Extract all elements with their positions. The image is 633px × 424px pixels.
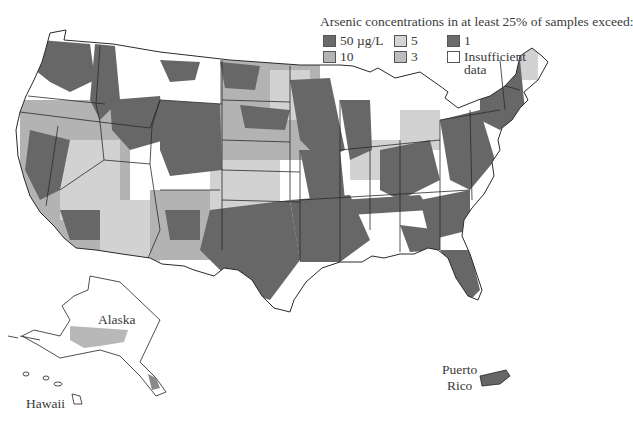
legend-label-1: 1 xyxy=(464,34,471,47)
label-alaska: Alaska xyxy=(98,312,136,328)
legend-label-10: 10 xyxy=(340,50,354,63)
legend-item-1: 1 xyxy=(447,34,471,47)
alaska-inset xyxy=(8,276,166,396)
legend-title: Arsenic concentrations in at least 25% o… xyxy=(320,14,633,30)
puerto-rico-shape xyxy=(480,370,510,386)
legend-swatch-5 xyxy=(394,35,407,47)
legend-label-3: 3 xyxy=(411,50,418,63)
hawaii-island-oahu xyxy=(43,376,49,380)
hawaii-island-maui xyxy=(54,382,62,386)
legend-label-insufficient: Insufficient data xyxy=(464,50,526,76)
label-puerto-rico: Puerto Rico xyxy=(442,362,477,394)
legend-swatch-50 xyxy=(323,35,336,47)
legend-item-insufficient: Insufficient data xyxy=(447,50,526,76)
legend-swatch-insufficient xyxy=(447,51,460,63)
region-nd-dark xyxy=(220,62,260,90)
legend-label-5: 5 xyxy=(411,34,418,47)
legend-item-5: 5 xyxy=(394,34,418,47)
label-hawaii: Hawaii xyxy=(26,396,65,412)
legend-swatch-1 xyxy=(447,35,460,47)
legend-item-50: 50 µg/L xyxy=(323,34,383,47)
legend-item-10: 10 xyxy=(323,50,354,63)
hawaii-island-big xyxy=(72,394,82,404)
legend-item-3: 3 xyxy=(394,50,418,63)
legend-label-50: 50 µg/L xyxy=(340,34,383,47)
region-wyoming-colorado-dark xyxy=(160,100,222,176)
hawaii-island-kauai xyxy=(23,372,29,376)
legend-swatch-10 xyxy=(323,51,336,63)
region-nm-dark xyxy=(165,210,200,240)
region-florida-dark xyxy=(440,250,480,300)
legend-swatch-3 xyxy=(394,51,407,63)
